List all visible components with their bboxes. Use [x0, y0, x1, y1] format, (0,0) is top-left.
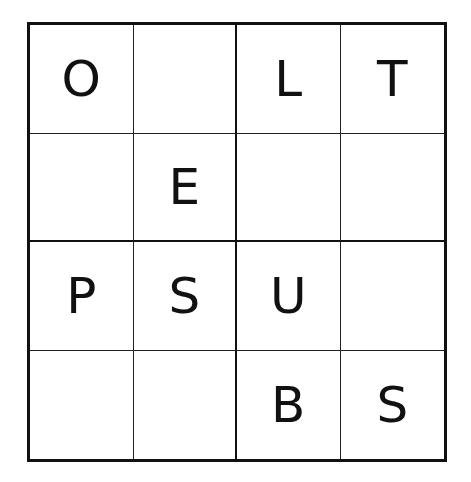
grid-cell-r2-c2[interactable]: E [134, 134, 238, 243]
grid-cell-r4-c4[interactable]: S [341, 351, 445, 460]
grid-cell-r3-c4[interactable] [341, 242, 445, 351]
grid-cell-r1-c2[interactable] [134, 25, 238, 134]
grid-cell-r1-c3[interactable]: L [237, 25, 341, 134]
grid-cell-r3-c1[interactable]: P [30, 242, 134, 351]
sudoku-grid: OLTEPSUBS [27, 22, 447, 462]
grid-cell-r4-c1[interactable] [30, 351, 134, 460]
grid-cell-r1-c4[interactable]: T [341, 25, 445, 134]
grid-cell-r4-c2[interactable] [134, 351, 238, 460]
grid-cell-r2-c3[interactable] [237, 134, 341, 243]
grid-cell-r3-c2[interactable]: S [134, 242, 238, 351]
grid-cell-r2-c1[interactable] [30, 134, 134, 243]
grid-cell-r2-c4[interactable] [341, 134, 445, 243]
grid-cell-r1-c1[interactable]: O [30, 25, 134, 134]
grid-cell-r3-c3[interactable]: U [237, 242, 341, 351]
grid-cell-r4-c3[interactable]: B [237, 351, 341, 460]
